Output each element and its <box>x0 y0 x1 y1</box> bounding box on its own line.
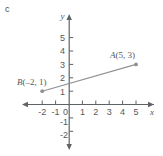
x-tick-label-4: 4 <box>120 107 125 117</box>
point-b-coords: (–2, 1) <box>23 77 47 87</box>
y-tick-label-2: 2 <box>60 73 65 83</box>
y-tick-label-1: 1 <box>60 87 65 97</box>
y-axis: 5 4 3 2 1 -1 -2 y <box>60 11 74 150</box>
x-tick-label-1: 1 <box>80 107 85 117</box>
point-a-coords: (5, 3) <box>116 50 136 60</box>
point-b-label: B(–2, 1) <box>17 77 47 87</box>
x-axis-arrow-left <box>22 102 28 107</box>
coordinate-plane: -2 -1 0 1 2 3 4 5 x 5 4 3 <box>0 0 163 156</box>
y-axis-arrow-down <box>67 144 72 150</box>
x-tick-label--1: -1 <box>52 107 60 117</box>
x-tick-label-5: 5 <box>133 107 138 117</box>
figure-canvas: c -2 -1 0 1 2 3 4 5 x <box>0 0 163 156</box>
y-axis-arrow-up <box>67 14 72 20</box>
x-axis-label: x <box>149 107 154 117</box>
y-tick-label-3: 3 <box>60 60 65 70</box>
y-tick-label--2: -2 <box>60 130 68 140</box>
x-tick-label-0: 0 <box>63 107 68 117</box>
x-tick-label-3: 3 <box>107 107 112 117</box>
x-tick-label--2: -2 <box>38 107 46 117</box>
point-a-label: A(5, 3) <box>109 50 135 60</box>
point-b: B(–2, 1) <box>17 77 47 93</box>
x-axis: -2 -1 0 1 2 3 4 5 x <box>22 101 154 118</box>
x-tick-label-2: 2 <box>93 107 98 117</box>
y-axis-label: y <box>60 11 65 21</box>
y-tick-label--1: -1 <box>60 117 68 127</box>
y-tick-label-4: 4 <box>60 46 65 56</box>
point-b-marker <box>40 89 44 93</box>
line-segment-ab <box>42 64 136 91</box>
y-tick-label-5: 5 <box>60 33 65 43</box>
point-a: A(5, 3) <box>109 50 138 66</box>
point-a-marker <box>134 63 138 67</box>
